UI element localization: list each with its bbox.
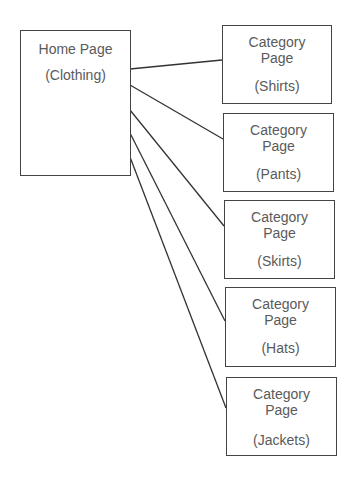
category-title-line2: Page	[223, 50, 331, 66]
category-node-hats: Category Page (Hats)	[225, 287, 336, 367]
category-node-jackets: Category Page (Jackets)	[226, 377, 337, 456]
connector-home-to-shirts	[130, 60, 222, 69]
category-subtitle: (Pants)	[224, 166, 333, 182]
category-title-line2: Page	[224, 138, 333, 154]
category-title-line1: Category	[227, 386, 336, 402]
category-title-line1: Category	[224, 122, 333, 138]
connector-home-to-hats	[130, 133, 225, 321]
category-title-line1: Category	[223, 34, 331, 50]
home-page-title: Home Page	[21, 41, 130, 57]
category-title-line1: Category	[226, 296, 335, 312]
category-subtitle: (Shirts)	[223, 78, 331, 94]
category-subtitle: (Jackets)	[227, 432, 336, 448]
category-subtitle: (Skirts)	[225, 253, 334, 269]
category-subtitle: (Hats)	[226, 340, 335, 356]
category-node-shirts: Category Page (Shirts)	[222, 25, 332, 104]
connector-home-to-pants	[130, 85, 223, 139]
category-title-line1: Category	[225, 209, 334, 225]
category-node-pants: Category Page (Pants)	[223, 113, 334, 192]
home-page-subtitle: (Clothing)	[21, 67, 130, 83]
home-page-node: Home Page (Clothing)	[20, 30, 131, 176]
connector-home-to-skirts	[130, 110, 224, 226]
category-node-skirts: Category Page (Skirts)	[224, 200, 335, 279]
category-title-line2: Page	[225, 225, 334, 241]
category-title-line2: Page	[227, 402, 336, 418]
connector-home-to-jackets	[130, 157, 226, 408]
category-title-line2: Page	[226, 312, 335, 328]
